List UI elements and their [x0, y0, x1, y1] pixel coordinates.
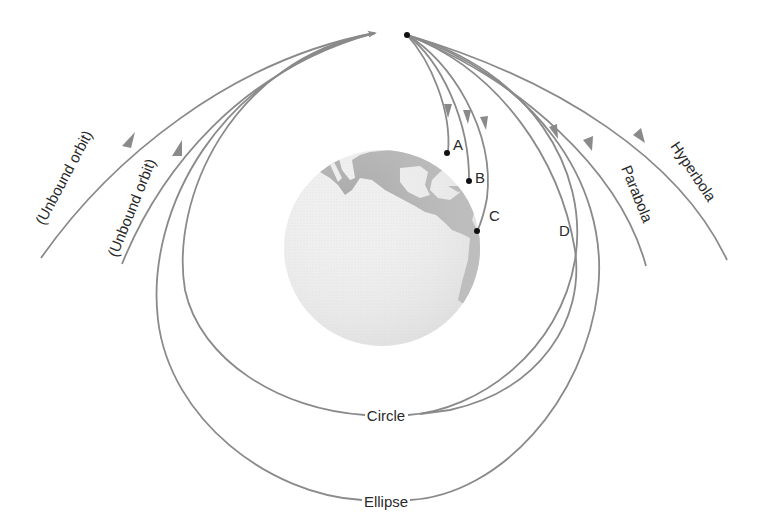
- launch-point: [404, 32, 410, 38]
- arrow-icon-parabola: [583, 136, 593, 151]
- label-parabola: Parabola: [618, 163, 657, 226]
- arrow-icon-c: [480, 116, 488, 130]
- point-b-marker: [466, 178, 472, 184]
- arrow-icon-b: [463, 110, 471, 124]
- diagram-svg: A B C D (Unbound orbit) (Unbound orbit) …: [0, 0, 763, 528]
- arrow-icon-unbound-inner: [172, 140, 182, 156]
- label-circle: Circle: [367, 407, 405, 424]
- point-c-marker: [474, 228, 480, 234]
- earth-globe: [284, 150, 485, 346]
- label-hyperbola: Hyperbola: [668, 138, 721, 205]
- label-d: D: [559, 222, 570, 239]
- label-unbound-outer: (Unbound orbit): [32, 127, 96, 227]
- label-b: B: [475, 169, 485, 186]
- label-c: C: [489, 207, 500, 224]
- orbit-diagram: A B C D (Unbound orbit) (Unbound orbit) …: [0, 0, 763, 528]
- label-a: A: [453, 136, 463, 153]
- trajectory-a: [407, 35, 448, 153]
- label-ellipse: Ellipse: [364, 493, 408, 510]
- point-a-marker: [444, 150, 450, 156]
- arrow-icon-hyperbola: [633, 128, 645, 143]
- arrow-icon-unbound-outer: [122, 132, 135, 148]
